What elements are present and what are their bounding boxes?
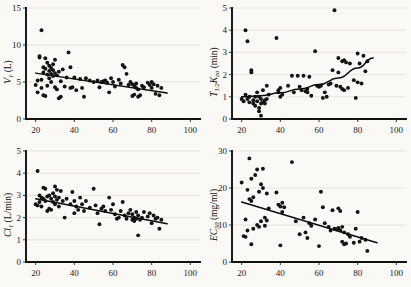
data-point [92, 187, 96, 191]
data-point [107, 196, 111, 200]
y-tick-label: 5 [17, 77, 22, 87]
data-point [265, 84, 269, 88]
data-point [278, 205, 282, 209]
points-ec50 [240, 156, 370, 252]
data-point [70, 85, 74, 89]
data-point [150, 86, 154, 90]
data-point [136, 213, 140, 217]
data-point [61, 67, 65, 71]
x-tick-label: 60 [109, 125, 119, 135]
data-point [156, 84, 160, 88]
data-point [49, 197, 53, 201]
data-point [157, 93, 161, 97]
data-point [132, 93, 136, 97]
data-point [45, 84, 49, 88]
data-point [255, 99, 259, 103]
data-point [302, 74, 306, 78]
data-point [43, 187, 47, 191]
data-point [63, 216, 67, 220]
data-point [146, 215, 150, 219]
data-point [261, 88, 265, 92]
data-point [36, 169, 40, 173]
data-point [72, 199, 76, 203]
data-point [152, 82, 156, 86]
data-point [286, 84, 290, 88]
data-point [294, 219, 298, 223]
data-point [57, 70, 61, 74]
data-point [354, 96, 358, 100]
data-point [317, 244, 321, 248]
y-tick-label: 3 [17, 190, 22, 200]
data-point [36, 79, 40, 83]
data-point [319, 190, 323, 194]
data-point [40, 86, 44, 90]
data-point [117, 78, 121, 82]
data-point [123, 65, 127, 69]
y-tick-label: 0 [17, 114, 22, 124]
data-point [55, 87, 59, 91]
data-point [255, 90, 259, 94]
svg-text:T1/2Keo (min): T1/2Keo (min) [209, 47, 220, 97]
x-tick-label: 20 [237, 268, 247, 278]
plot-cl1: 01234520406080100 Cl1 (L/min) [0, 143, 205, 286]
data-point [43, 56, 47, 60]
data-point [323, 221, 327, 225]
data-point [265, 97, 269, 101]
trend-line-cl1 [36, 199, 167, 224]
y-tick-label: 0 [223, 114, 228, 124]
panel-cl1: 01234520406080100 Cl1 (L/min) [0, 143, 205, 286]
data-point [94, 203, 98, 207]
data-point [121, 200, 125, 204]
data-point [82, 95, 86, 99]
data-point [40, 205, 44, 209]
data-point [138, 93, 142, 97]
data-point [74, 88, 78, 92]
panel-ec50: 010203020406080100 EC50 (mg/ml) [206, 143, 411, 286]
data-point [249, 177, 253, 181]
data-point [157, 227, 161, 231]
data-point [304, 230, 308, 234]
data-point [278, 243, 282, 247]
data-point [51, 62, 55, 66]
data-point [244, 218, 248, 222]
data-point [265, 219, 269, 223]
data-point [34, 83, 38, 87]
data-point [80, 86, 84, 90]
data-point [344, 242, 348, 246]
data-point [323, 90, 327, 94]
x-tick-label: 100 [390, 125, 404, 135]
data-point [259, 114, 263, 118]
data-point [282, 205, 286, 209]
data-point [159, 218, 163, 222]
data-point [292, 90, 296, 94]
data-point [244, 235, 248, 239]
data-point [49, 80, 53, 84]
data-point [365, 249, 369, 253]
data-point [242, 99, 246, 103]
data-point [362, 54, 366, 58]
x-tick-label: 80 [147, 268, 157, 278]
data-point [49, 208, 53, 212]
ylabel-v1: V1 (L) [3, 60, 14, 84]
data-point [302, 216, 306, 220]
data-point [290, 160, 294, 164]
panel-v1: 05101520406080100 V1 (L) [0, 0, 205, 143]
data-point [59, 79, 63, 83]
data-point [259, 182, 263, 186]
ylabel-ec50: EC50 (mg/ml) [209, 189, 220, 242]
data-point [275, 190, 279, 194]
data-point [340, 225, 344, 229]
data-point [59, 189, 63, 193]
y-tick-label: 15 [12, 3, 22, 13]
data-point [321, 205, 325, 209]
data-point [305, 90, 309, 94]
data-point [136, 233, 140, 237]
data-point [259, 97, 263, 101]
data-point [246, 229, 250, 233]
data-point [134, 210, 138, 214]
data-point [338, 209, 342, 213]
x-tick-label: 40 [70, 268, 80, 278]
x-tick-label: 40 [70, 125, 80, 135]
data-point [156, 216, 160, 220]
data-point [358, 240, 362, 244]
